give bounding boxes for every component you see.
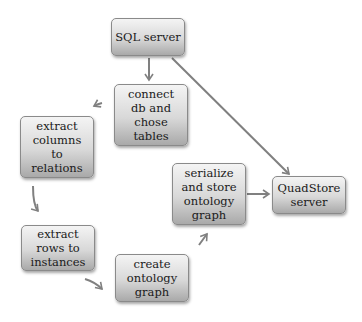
node-connect-db: connect db and chose tables [114,84,188,146]
edge-connect-to-columns [94,103,102,106]
edge-rows-to-create [85,279,102,289]
node-quadstore-server: QuadStore server [272,176,346,214]
node-extract-columns: extract columns to relations [20,116,94,178]
edge-create-to-serialize [199,234,207,245]
node-serialize-store: serialize and store ontology graph [172,163,246,225]
edge-sql-to-quadstore [172,58,289,174]
edge-columns-to-rows [33,186,38,211]
node-sql-server: SQL server [111,18,185,56]
node-extract-rows: extract rows to instances [21,225,95,271]
node-create-ontology: create ontology graph [115,254,189,302]
